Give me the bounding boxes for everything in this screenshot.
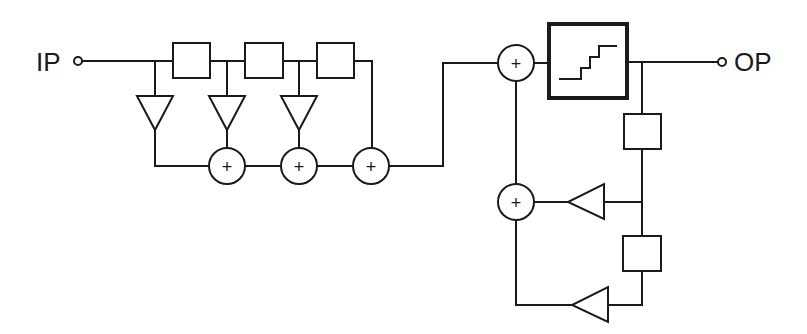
svg-text:+: + [366,157,377,177]
main-summer: + [498,45,534,81]
gain-block-1 [137,96,173,130]
feedback-gain-2 [572,287,608,322]
delay-block-3 [317,43,354,78]
delay-block-1 [173,43,210,78]
input-terminal [74,57,82,65]
svg-text:+: + [294,157,305,177]
wire [155,130,209,166]
svg-text:+: + [222,157,233,177]
gain-block-3 [281,96,317,130]
svg-text:+: + [511,193,522,213]
wire [354,61,372,148]
summer-3: + [353,148,389,184]
wire [516,220,572,305]
output-label: OP [734,47,772,77]
feedback-gain-1 [568,184,604,219]
gain-block-2 [209,96,245,130]
summer-1: + [209,148,245,184]
feedback-delay-2 [623,236,661,271]
output-terminal [718,58,726,66]
wire [389,63,498,166]
feedback-summer: + [498,184,534,220]
feedback-delay-1 [624,114,661,149]
quantizer-block [549,24,627,98]
delay-block-2 [245,43,283,78]
summer-2: + [281,148,317,184]
wire [608,271,642,305]
block-diagram: IP + + + + OP [0,0,807,334]
svg-text:+: + [511,54,522,74]
input-label: IP [36,47,61,77]
